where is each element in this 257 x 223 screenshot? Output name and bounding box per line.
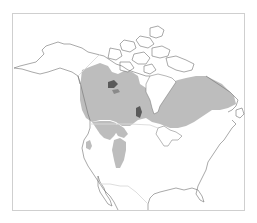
great-lakes [156,126,182,146]
arctic-archipelago [108,26,194,74]
baja-california-coastline [98,176,112,206]
north-america-range-map [0,0,257,223]
us-mexico-border [100,184,148,204]
range-area-colorado-rockies [112,138,126,168]
newfoundland [236,108,244,118]
range-area-oregon [86,140,92,150]
